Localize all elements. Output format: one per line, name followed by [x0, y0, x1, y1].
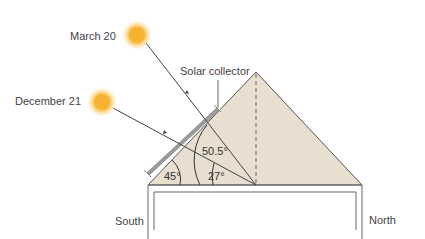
december-sun-icon — [87, 87, 117, 117]
march-label: March 20 — [70, 31, 116, 42]
march-angle-label: 50.5° — [202, 146, 228, 157]
roof — [148, 72, 362, 185]
december-angle-label: 27° — [208, 171, 225, 182]
diagram-canvas: March 20 December 21 Solar collector Sou… — [0, 0, 425, 239]
collector-label: Solar collector — [180, 66, 250, 77]
roof-angle-label: 45° — [164, 171, 181, 182]
south-label: South — [115, 216, 144, 227]
december-label: December 21 — [15, 96, 81, 107]
march-sun-icon — [122, 20, 152, 50]
building-outer-wall — [148, 185, 362, 239]
building-inner-wall — [154, 192, 356, 230]
north-label: North — [369, 215, 396, 226]
